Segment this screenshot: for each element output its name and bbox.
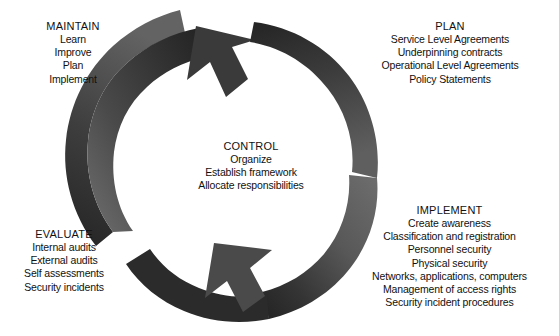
stage-plan: PLAN Service Level Agreements Underpinni…: [341, 19, 559, 86]
stage-implement-item-4: Networks, applications, computers: [340, 270, 559, 283]
stage-implement-item-3: Physical security: [340, 257, 559, 270]
stage-control-item-0: Organize: [161, 153, 341, 166]
stage-evaluate: EVALUATE Internal audits External audits…: [2, 227, 126, 294]
stage-evaluate-item-3: Security incidents: [2, 281, 126, 294]
stage-plan-item-3: Policy Statements: [341, 73, 559, 86]
stage-maintain-item-1: Improve: [12, 46, 134, 59]
stage-implement-item-2: Personnel security: [340, 243, 559, 256]
stage-plan-item-2: Operational Level Agreements: [341, 59, 559, 72]
stage-implement-item-5: Management of access rights: [340, 283, 559, 296]
stage-implement-item-0: Create awareness: [340, 217, 559, 230]
stage-control-item-2: Allocate responsibilities: [161, 179, 341, 192]
security-management-cycle-diagram: MAINTAIN Learn Improve Plan Implement PL…: [0, 0, 559, 336]
stage-evaluate-item-0: Internal audits: [2, 241, 126, 254]
stage-implement-item-6: Security incident procedures: [340, 296, 559, 309]
stage-implement-item-1: Classification and registration: [340, 230, 559, 243]
stage-evaluate-item-1: External audits: [2, 254, 126, 267]
stage-implement: IMPLEMENT Create awareness Classificatio…: [340, 203, 559, 309]
stage-plan-item-1: Underpinning contracts: [341, 46, 559, 59]
stage-plan-heading: PLAN: [341, 19, 559, 33]
stage-evaluate-item-2: Self assessments: [2, 267, 126, 280]
stage-maintain-heading: MAINTAIN: [12, 19, 134, 33]
stage-implement-heading: IMPLEMENT: [340, 203, 559, 217]
stage-evaluate-heading: EVALUATE: [2, 227, 126, 241]
stage-control-item-1: Establish framework: [161, 166, 341, 179]
stage-maintain-item-2: Plan: [12, 59, 134, 72]
upper-arrowhead: [187, 26, 255, 97]
stage-maintain-item-0: Learn: [12, 33, 134, 46]
stage-maintain: MAINTAIN Learn Improve Plan Implement: [12, 19, 134, 86]
stage-control: CONTROL Organize Establish framework All…: [161, 139, 341, 193]
stage-control-heading: CONTROL: [161, 139, 341, 153]
stage-maintain-item-3: Implement: [12, 73, 134, 86]
stage-plan-item-0: Service Level Agreements: [341, 33, 559, 46]
